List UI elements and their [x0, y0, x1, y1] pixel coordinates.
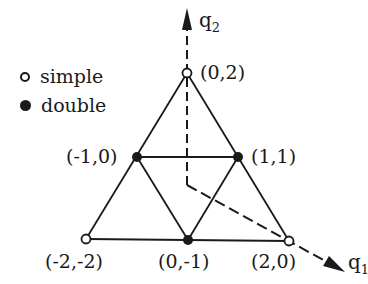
label-0-m1: (0,-1) — [158, 252, 209, 271]
weight-diagram — [0, 0, 368, 284]
edge-inner-left — [137, 157, 188, 240]
label-0-2: (0,2) — [200, 63, 245, 82]
label-2-0: (2,0) — [251, 252, 296, 271]
q1-arrow-icon — [323, 256, 345, 272]
point-0-m1-double — [183, 235, 193, 245]
legend-item-simple: simple — [20, 67, 103, 86]
legend-item-double: double — [20, 96, 106, 115]
q2-arrow-icon — [182, 8, 192, 30]
point-2-0-simple — [285, 237, 294, 246]
q2-axis — [182, 8, 192, 185]
q2-sub: 2 — [212, 20, 220, 35]
filled-circle-icon — [20, 100, 31, 111]
q1-sub: 1 — [361, 262, 368, 277]
legend-label-double: double — [41, 96, 106, 115]
q1-base: q — [348, 250, 361, 274]
q1-axis-label: q1 — [348, 252, 368, 276]
q2-axis-label: q2 — [199, 10, 220, 34]
point-1-1-double — [233, 152, 243, 162]
open-circle-icon — [20, 72, 30, 82]
edge-inner-right — [188, 157, 238, 240]
label-1-1: (1,1) — [251, 147, 296, 166]
label-m1-0: (-1,0) — [66, 147, 117, 166]
q2-base: q — [199, 8, 212, 32]
point-m1-0-double — [132, 152, 142, 162]
point-0-2-simple — [183, 69, 192, 78]
point-m2-m2-simple — [82, 235, 91, 244]
legend-label-simple: simple — [40, 67, 103, 86]
label-m2-m2: (-2,-2) — [45, 252, 103, 271]
